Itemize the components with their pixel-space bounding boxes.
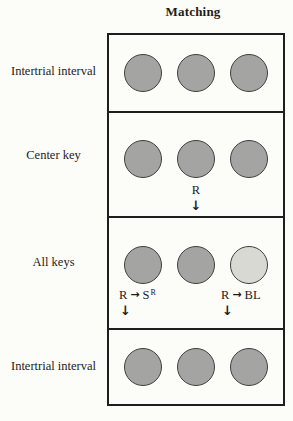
match-response-annotation: R → SR ↓ <box>119 289 156 317</box>
key-row <box>124 246 268 284</box>
response-outcome-line: R → SR <box>119 289 156 302</box>
row-label-all-keys: All keys <box>0 255 107 270</box>
response-label: R <box>221 289 229 302</box>
key-circle-center <box>177 140 215 178</box>
panel-center-key: R ↓ <box>109 113 283 218</box>
center-key-response-annotation: R ↓ <box>109 184 283 212</box>
matching-procedure-figure: Matching Intertrial interval Center key … <box>0 0 293 421</box>
response-label: R <box>192 184 200 197</box>
key-circle-left <box>124 140 162 178</box>
response-label: R <box>119 289 127 302</box>
procedure-panel-stack: R ↓ R → SR ↓ R → <box>107 33 285 406</box>
row-label-intertrial-interval-bottom: Intertrial interval <box>0 359 107 374</box>
key-row <box>124 348 268 386</box>
row-label-center-key: Center key <box>0 148 107 163</box>
key-row <box>124 140 268 178</box>
down-arrow-icon: ↓ <box>120 304 131 317</box>
key-circle-right <box>230 348 268 386</box>
response-outcome-line: R → BL <box>221 289 261 302</box>
right-arrow-icon: → <box>130 289 139 300</box>
nonmatch-response-annotation: R → BL ↓ <box>221 289 261 317</box>
key-circle-right <box>230 140 268 178</box>
key-circle-right <box>230 246 268 284</box>
panel-intertrial-interval-top <box>109 35 283 113</box>
key-circle-left <box>124 246 162 284</box>
down-arrow-icon: ↓ <box>222 304 233 317</box>
key-row <box>124 54 268 92</box>
key-circle-center <box>177 246 215 284</box>
key-circle-right <box>230 54 268 92</box>
key-circle-center <box>177 348 215 386</box>
outcome-superscript: R <box>151 288 156 297</box>
key-circle-left <box>124 54 162 92</box>
down-arrow-icon: ↓ <box>191 199 202 212</box>
key-circle-left <box>124 348 162 386</box>
panel-intertrial-interval-bottom <box>109 330 283 404</box>
figure-title: Matching <box>104 4 282 20</box>
right-arrow-icon: → <box>232 289 241 300</box>
key-circle-center <box>177 54 215 92</box>
panel-all-keys: R → SR ↓ R → BL ↓ <box>109 218 283 330</box>
outcome-label: BL <box>245 289 261 302</box>
row-label-intertrial-interval-top: Intertrial interval <box>0 64 107 79</box>
outcome-label: SR <box>143 289 156 302</box>
